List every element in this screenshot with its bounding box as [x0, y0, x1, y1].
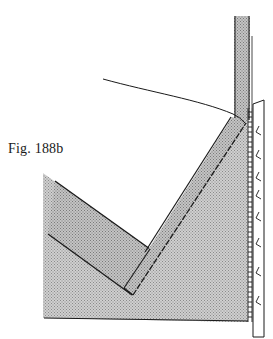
figure-svg	[0, 0, 273, 339]
figure-drawing: Fig. 188b	[0, 0, 273, 339]
figure-caption: Fig. 188b	[8, 141, 63, 157]
right-edge-band	[253, 100, 264, 337]
vertical-top-strip	[234, 16, 252, 120]
stitched-seam	[248, 108, 252, 322]
